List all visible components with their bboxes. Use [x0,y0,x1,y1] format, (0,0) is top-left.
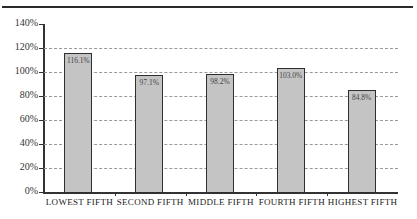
bar: 84.8% [348,90,376,193]
bar: 116.1% [64,53,92,193]
bar-value-label: 103.0% [278,71,304,80]
y-tick-label: 80% [0,90,38,100]
bar-value-label: 98.2% [207,77,233,86]
top-rule [2,6,413,8]
y-tick-label: 60% [0,114,38,124]
gridline [44,72,398,73]
x-tick-mark [327,192,328,196]
bar: 98.2% [206,74,234,193]
bar: 103.0% [277,68,305,193]
y-tick-mark [39,192,44,193]
y-tick-label: 120% [0,42,38,52]
y-tick-label: 100% [0,66,38,76]
x-tick-mark [115,192,116,196]
x-category-label: MIDDLE FIFTH [186,197,257,207]
bar: 97.1% [135,75,163,193]
x-category-label: SECOND FIFTH [115,197,186,207]
y-tick-label: 0% [0,186,38,196]
y-tick-label: 20% [0,162,38,172]
y-tick-mark [39,24,44,25]
bar-value-label: 84.8% [349,93,375,102]
bar-value-label: 116.1% [65,56,91,65]
x-category-label: HIGHEST FIFTH [327,197,398,207]
y-tick-label: 40% [0,138,38,148]
x-category-label: FOURTH FIFTH [256,197,327,207]
x-tick-mark [186,192,187,196]
x-tick-mark [256,192,257,196]
bar-value-label: 97.1% [136,78,162,87]
gridline [44,48,398,49]
x-category-label: LOWEST FIFTH [44,197,115,207]
y-tick-label: 140% [0,18,38,28]
